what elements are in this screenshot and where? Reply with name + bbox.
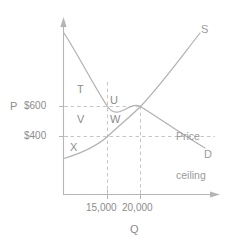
x-tick-label-20000: 20,000 xyxy=(122,202,153,214)
supply-demand-chart: P $600 $400 15,000 20,000 Q S D T U V W … xyxy=(0,0,232,249)
price-ceiling-annotation: Price ceiling xyxy=(176,104,206,208)
price-ceiling-line1: Price xyxy=(176,130,206,143)
y-tick-label-400: $400 xyxy=(24,130,46,142)
region-label-t: T xyxy=(77,83,84,95)
price-ceiling-line2: ceiling xyxy=(176,169,206,182)
x-axis-label: Q xyxy=(130,223,139,235)
region-label-x: X xyxy=(70,141,77,153)
region-label-w: W xyxy=(110,113,120,125)
region-label-v: V xyxy=(77,113,84,125)
y-axis-label: P xyxy=(10,100,17,112)
region-label-u: U xyxy=(110,94,118,106)
x-tick-label-15000: 15,000 xyxy=(86,202,117,214)
supply-curve-label: S xyxy=(201,23,208,35)
y-tick-label-600: $600 xyxy=(24,100,46,112)
